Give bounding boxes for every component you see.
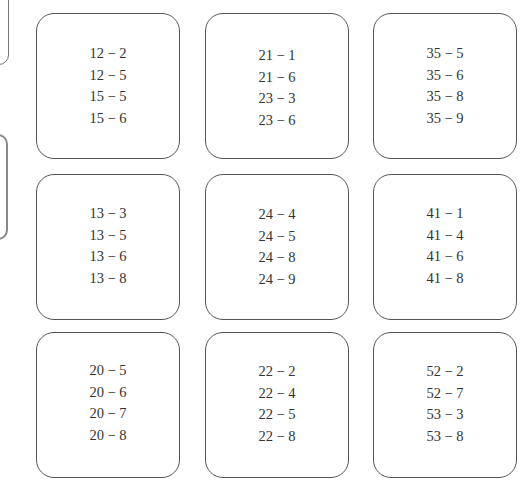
problem: 35 − 5: [374, 43, 516, 65]
problem: 23 − 6: [206, 110, 348, 132]
problem: 20 − 7: [37, 403, 179, 425]
problem: 24 − 8: [206, 247, 348, 269]
problem: 12 − 2: [37, 43, 179, 65]
problem: 24 − 4: [206, 204, 348, 226]
problem: 20 − 8: [37, 425, 179, 447]
problem-card-1: 12 − 2 12 − 5 15 − 5 15 − 6: [36, 13, 180, 159]
problem: 13 − 8: [37, 268, 179, 290]
problem-card-5: 24 − 4 24 − 5 24 − 8 24 − 9: [205, 174, 349, 320]
problem: 24 − 5: [206, 226, 348, 248]
problem: 15 − 6: [37, 108, 179, 130]
problem: 21 − 6: [206, 67, 348, 89]
problem: 41 − 6: [374, 246, 516, 268]
problem: 24 − 9: [206, 269, 348, 291]
problem-card-2: 21 − 1 21 − 6 23 − 3 23 − 6: [205, 13, 349, 159]
problem: 15 − 5: [37, 86, 179, 108]
problem: 41 − 8: [374, 268, 516, 290]
problem: 23 − 3: [206, 88, 348, 110]
problem: 53 − 8: [374, 426, 516, 448]
problem: 52 − 7: [374, 383, 516, 405]
problem-card-8: 22 − 2 22 − 4 22 − 5 22 − 8: [205, 332, 349, 478]
problem: 13 − 3: [37, 203, 179, 225]
partial-card-mid-left: [0, 134, 8, 240]
problem: 41 − 1: [374, 203, 516, 225]
problem: 53 − 3: [374, 404, 516, 426]
problem-card-3: 35 − 5 35 − 6 35 − 8 35 − 9: [373, 13, 517, 159]
problem: 22 − 8: [206, 426, 348, 448]
problem: 35 − 8: [374, 86, 516, 108]
problem: 20 − 5: [37, 360, 179, 382]
problem: 13 − 6: [37, 246, 179, 268]
problem: 52 − 2: [374, 361, 516, 383]
problem: 41 − 4: [374, 225, 516, 247]
problem-card-7: 20 − 5 20 − 6 20 − 7 20 − 8: [36, 332, 180, 478]
problem: 22 − 2: [206, 361, 348, 383]
problem: 22 − 5: [206, 404, 348, 426]
problem: 22 − 4: [206, 383, 348, 405]
partial-card-top-left: [0, 0, 9, 65]
problem-card-4: 13 − 3 13 − 5 13 − 6 13 − 8: [36, 174, 180, 320]
problem: 35 − 9: [374, 108, 516, 130]
problem-card-6: 41 − 1 41 − 4 41 − 6 41 − 8: [373, 174, 517, 320]
problem: 12 − 5: [37, 65, 179, 87]
problem: 20 − 6: [37, 382, 179, 404]
problem: 13 − 5: [37, 225, 179, 247]
problem-card-9: 52 − 2 52 − 7 53 − 3 53 − 8: [373, 332, 517, 478]
problem: 21 − 1: [206, 45, 348, 67]
problem: 35 − 6: [374, 65, 516, 87]
